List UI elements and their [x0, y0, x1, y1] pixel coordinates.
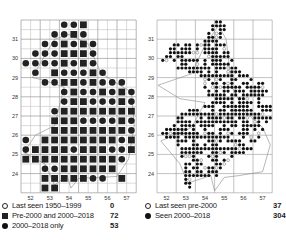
filled-dot-record — [230, 82, 233, 85]
open-dot-record — [227, 132, 230, 135]
filled-dot-record — [257, 101, 260, 104]
filled-dot-record — [165, 55, 168, 58]
filled-square-record — [80, 98, 87, 105]
filled-dot-record — [242, 89, 245, 92]
filled-dot-record — [188, 120, 191, 123]
filled-dot-record — [230, 109, 233, 112]
filled-square-record — [118, 98, 125, 105]
filled-dot-record — [188, 147, 191, 150]
filled-dot-record — [196, 174, 199, 177]
filled-dot-record — [200, 174, 203, 177]
filled-dot-record — [173, 43, 176, 46]
filled-dot-record — [169, 128, 172, 131]
filled-dot-record — [226, 105, 229, 108]
filled-square-record — [70, 156, 77, 163]
y-tick-label: 24 — [12, 171, 18, 177]
filled-dot-record — [192, 151, 195, 154]
filled-dot-record — [184, 170, 187, 173]
filled-square-record — [61, 127, 68, 134]
filled-dot-record — [173, 47, 176, 50]
filled-dot-record — [196, 166, 199, 169]
y-tick-label: 31 — [12, 36, 18, 42]
filled-circle-record — [51, 108, 58, 115]
filled-dot-record — [238, 74, 241, 77]
filled-circle-icon — [145, 213, 151, 219]
filled-dot-record — [177, 143, 180, 146]
open-dot-record — [261, 113, 264, 116]
filled-square-record — [99, 89, 106, 96]
filled-dot-record — [238, 101, 241, 104]
filled-circle-record — [51, 41, 58, 48]
filled-dot-record — [242, 124, 245, 127]
filled-dot-record — [184, 139, 187, 142]
open-dot-record — [227, 67, 230, 70]
open-dot-record — [204, 166, 207, 169]
filled-dot-record — [219, 20, 222, 23]
filled-dot-record — [226, 55, 229, 58]
filled-dot-record — [223, 86, 226, 89]
filled-dot-record — [230, 70, 233, 73]
filled-square-record — [80, 156, 87, 163]
filled-square-record — [61, 41, 68, 48]
filled-dot-record — [211, 63, 214, 66]
filled-square-record — [80, 165, 87, 172]
filled-dot-record — [180, 47, 183, 50]
filled-circle-record — [23, 60, 30, 67]
filled-dot-record — [184, 47, 187, 50]
filled-circle-record — [109, 89, 116, 96]
filled-dot-record — [184, 132, 187, 135]
filled-dot-record — [203, 105, 206, 108]
filled-dot-record — [196, 109, 199, 112]
filled-dot-record — [261, 82, 264, 85]
filled-circle-record — [90, 60, 97, 67]
filled-dot-record — [203, 59, 206, 62]
filled-dot-record — [249, 147, 252, 150]
filled-circle-record — [23, 137, 30, 144]
x-tick-label: 53 — [47, 195, 53, 201]
filled-dot-record — [223, 112, 226, 115]
filled-dot-record — [211, 124, 214, 127]
filled-circle-record — [61, 89, 68, 96]
filled-square-record — [80, 21, 87, 28]
filled-dot-record — [230, 59, 233, 62]
filled-dot-record — [234, 139, 237, 142]
filled-dot-record — [215, 97, 218, 100]
filled-square-record — [128, 137, 135, 144]
x-tick-label: 57 — [260, 195, 266, 201]
filled-dot-record — [238, 109, 241, 112]
filled-square-record — [42, 137, 49, 144]
filled-dot-record — [177, 51, 180, 54]
filled-dot-record — [207, 132, 210, 135]
filled-dot-record — [207, 170, 210, 173]
open-dot-record — [223, 47, 226, 50]
filled-dot-record — [223, 93, 226, 96]
filled-dot-record — [200, 74, 203, 77]
filled-dot-record — [200, 70, 203, 73]
filled-dot-record — [180, 51, 183, 54]
filled-dot-record — [230, 101, 233, 104]
filled-dot-record — [203, 120, 206, 123]
filled-dot-record — [242, 151, 245, 154]
filled-circle-record — [61, 31, 68, 38]
filled-dot-record — [188, 109, 191, 112]
x-tick-label: 54 — [202, 195, 208, 201]
filled-dot-record — [180, 132, 183, 135]
filled-circle-record — [90, 89, 97, 96]
filled-dot-record — [207, 174, 210, 177]
filled-dot-record — [238, 151, 241, 154]
filled-square-record — [22, 156, 29, 163]
filled-circle-record — [119, 79, 126, 86]
filled-dot-record — [211, 24, 214, 27]
filled-dot-record — [177, 120, 180, 123]
open-dot-record — [184, 155, 187, 158]
filled-dot-record — [246, 101, 249, 104]
open-dot-record — [250, 136, 253, 139]
filled-dot-record — [207, 139, 210, 142]
filled-dot-record — [207, 124, 210, 127]
filled-dot-record — [215, 20, 218, 23]
filled-dot-record — [253, 139, 256, 142]
filled-square-icon — [2, 213, 8, 219]
filled-circle-record — [42, 50, 49, 57]
filled-dot-record — [203, 124, 206, 127]
y-tick-label: 30 — [148, 55, 154, 61]
